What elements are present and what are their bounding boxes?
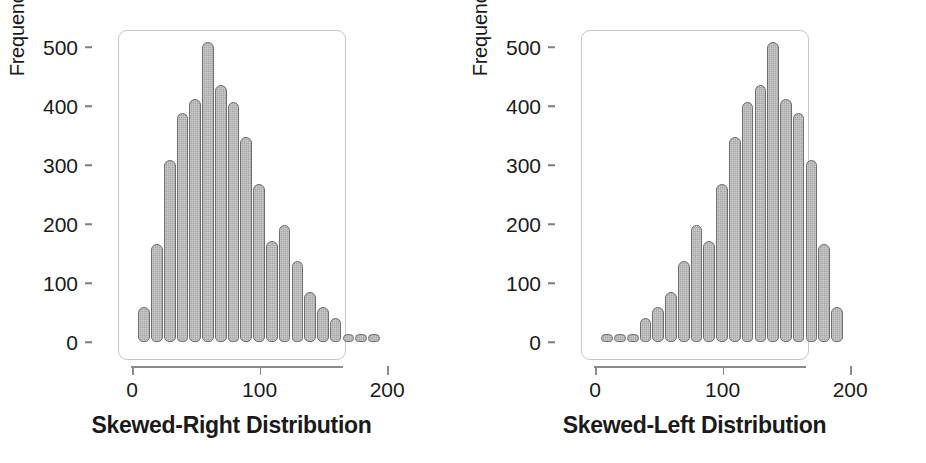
y-axis-tick-label: 400 [43, 96, 78, 117]
x-axis-tick-mark [260, 366, 262, 375]
histogram-bar [767, 42, 779, 342]
y-axis-tick-label: 200 [506, 214, 541, 235]
figure-container: Frequency 0100200300400500 0100200 Skewe… [0, 0, 926, 463]
y-axis-tick-label: 0 [66, 332, 78, 353]
y-axis-tick-label: 300 [506, 155, 541, 176]
histogram-bar [189, 99, 201, 342]
histogram-bar [215, 85, 227, 342]
bars-area [581, 30, 809, 360]
bars-area [118, 30, 346, 360]
y-axis-tick-label: 100 [506, 273, 541, 294]
histogram-bar [317, 307, 329, 342]
y-axis-tick-mark [85, 164, 92, 166]
x-axis-tick-mark [850, 366, 852, 375]
histogram-bar [266, 241, 278, 342]
y-axis-tick-mark [85, 46, 92, 48]
histogram-bar [164, 160, 176, 342]
x-axis-tick-mark [387, 366, 389, 375]
histogram-bar [755, 85, 767, 342]
y-axis-tick-mark [85, 282, 92, 284]
y-axis-tick-labels: 0100200300400500 [497, 30, 555, 350]
y-axis-tick-label: 200 [43, 214, 78, 235]
histogram-bar [304, 292, 316, 342]
x-axis-tick-label: 200 [833, 378, 868, 402]
histogram-bar [355, 334, 367, 342]
y-axis-tick-label: 100 [43, 273, 78, 294]
y-axis-title: Frequency [6, 0, 29, 110]
x-axis-tick-label: 200 [370, 378, 405, 402]
histogram-bar [292, 261, 304, 342]
y-axis-tick-mark [85, 105, 92, 107]
histogram-bar [601, 334, 613, 342]
y-axis-tick-mark [85, 341, 92, 343]
histogram-bar [138, 307, 150, 342]
histogram-bar [818, 244, 830, 342]
x-axis-tick-label: 0 [589, 378, 601, 402]
x-axis-line [118, 366, 346, 378]
histogram-bar [330, 318, 342, 342]
histogram-bar [614, 334, 626, 342]
histogram-bar [253, 184, 265, 342]
axis-rule [594, 366, 806, 368]
y-axis-title: Frequency [469, 0, 492, 110]
chart-panel-skewed-right: Frequency 0100200300400500 0100200 Skewe… [0, 0, 463, 463]
x-axis-tick-mark [595, 366, 597, 375]
histogram-bar [742, 102, 754, 342]
y-axis-tick-mark [85, 223, 92, 225]
x-axis-tick-labels: 0100200 [581, 378, 809, 406]
x-axis-tick-mark [132, 366, 134, 375]
y-axis-tick-labels: 0100200300400500 [34, 30, 92, 350]
histogram-bar [368, 334, 380, 342]
histogram-bar [177, 113, 189, 343]
y-axis-tick-mark [548, 164, 555, 166]
y-axis-tick-mark [548, 223, 555, 225]
histogram-bar [279, 225, 291, 342]
x-axis-tick-label: 100 [242, 378, 277, 402]
y-axis-tick-label: 400 [506, 96, 541, 117]
histogram-bar [729, 137, 741, 342]
y-axis-tick-mark [548, 46, 555, 48]
y-axis-tick-label: 500 [43, 37, 78, 58]
histogram-bar [703, 241, 715, 342]
histogram-bar [627, 334, 639, 342]
y-axis-tick-mark [548, 105, 555, 107]
histogram-bar [780, 99, 792, 342]
axis-rule [131, 366, 343, 368]
histogram-bar [652, 307, 664, 342]
y-axis-tick-label: 500 [506, 37, 541, 58]
x-axis-tick-labels: 0100200 [118, 378, 346, 406]
histogram-bar [228, 102, 240, 342]
x-axis-tick-label: 100 [705, 378, 740, 402]
x-axis-tick-label: 0 [126, 378, 138, 402]
histogram-bar [240, 137, 252, 342]
histogram-bar [640, 318, 652, 342]
histogram-bar [202, 42, 214, 342]
histogram-bar [831, 307, 843, 342]
histogram-bar [716, 184, 728, 342]
y-axis-tick-mark [548, 341, 555, 343]
histogram-bar [691, 225, 703, 342]
histogram-bar [343, 334, 355, 342]
x-axis-tick-mark [723, 366, 725, 375]
chart-panel-skewed-left: Frequency 0100200300400500 0100200 Skewe… [463, 0, 926, 463]
histogram-bar [665, 292, 677, 342]
y-axis-tick-mark [548, 282, 555, 284]
histogram-bar [678, 261, 690, 342]
x-axis-line [581, 366, 809, 378]
histogram-bar [793, 113, 805, 343]
panel-caption: Skewed-Left Distribution [463, 412, 926, 439]
histogram-bar [151, 244, 163, 342]
y-axis-tick-label: 0 [529, 332, 541, 353]
histogram-bar [806, 160, 818, 342]
panel-caption: Skewed-Right Distribution [0, 412, 463, 439]
y-axis-tick-label: 300 [43, 155, 78, 176]
